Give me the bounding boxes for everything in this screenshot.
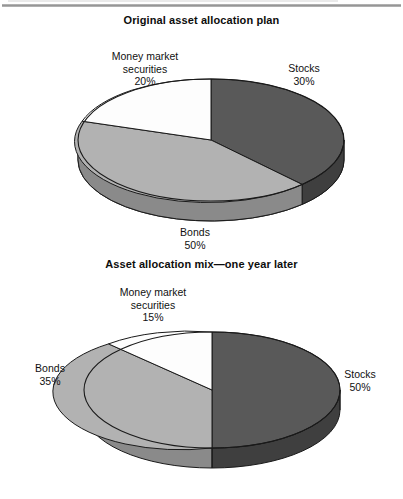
chart-original-asset-allocation-plan: Original asset allocation plan (0, 14, 403, 252)
page-top-faint-line (8, 0, 338, 2)
page-canvas: Original asset allocation plan (0, 0, 403, 499)
pie-later-label-money-market: Money market securities 15% (78, 286, 228, 324)
pie-original-label-bonds: Bonds 50% (140, 226, 250, 251)
page-top-rule (2, 4, 401, 7)
pie-later-label-bonds: Bonds 35% (8, 362, 92, 387)
pie-later-label-stocks: Stocks 50% (318, 368, 402, 393)
pie-original-label-money-market: Money market securities 20% (70, 50, 220, 88)
pie-original-label-stocks: Stocks 30% (258, 62, 350, 87)
chart-asset-allocation-one-year-later: Asset allocation mix—one year later (0, 258, 403, 499)
